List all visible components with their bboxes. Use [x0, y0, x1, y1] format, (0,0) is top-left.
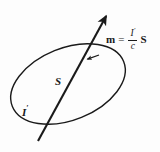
equation-denominator: c — [130, 41, 136, 52]
equation-numerator: I′ — [130, 27, 137, 40]
figure-canvas: S I′ m = I′ c S — [0, 0, 160, 152]
equation-numerator-prime-mark: ′ — [134, 26, 136, 34]
equation-fraction: I′ c — [128, 27, 137, 51]
moment-axis-arrow-icon — [38, 16, 106, 141]
label-area-vector-s: S — [55, 76, 61, 87]
equation-equals-sign: = — [118, 33, 124, 45]
label-current-i-prime: I′ — [22, 105, 29, 118]
equation-rhs-vector-s: S — [140, 33, 146, 45]
label-current-prime-mark: ′ — [26, 104, 28, 113]
figure-drawing — [0, 0, 160, 152]
equation-magnetic-moment: m = I′ c S — [106, 27, 147, 51]
equation-lhs-vector-m: m — [106, 33, 115, 45]
loop-direction-arrow-icon — [88, 55, 100, 59]
